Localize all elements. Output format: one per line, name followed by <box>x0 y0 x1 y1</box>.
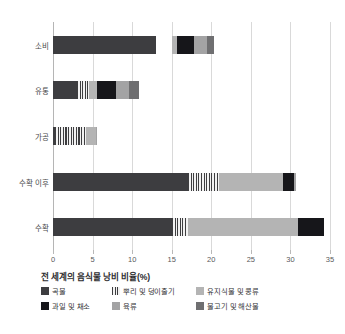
x-tick <box>93 250 94 254</box>
bar-segment <box>97 81 116 99</box>
bar-segment <box>294 173 296 191</box>
legend-item[interactable]: 유지식물 및 콩류 <box>196 286 259 296</box>
bar-segment <box>194 36 207 54</box>
x-tick-label: 30 <box>286 255 294 264</box>
x-tick-label: 35 <box>326 255 334 264</box>
bar-segment <box>172 218 189 236</box>
bar-segment <box>298 218 324 236</box>
bar-segment <box>89 81 97 99</box>
x-tick-label: 15 <box>168 255 176 264</box>
legend-item[interactable]: 곡물 <box>41 286 66 296</box>
x-tick <box>172 250 173 254</box>
bar-segment <box>129 81 139 99</box>
bar-segment <box>207 36 214 54</box>
legend-label: 과일 및 채소 <box>52 301 90 311</box>
x-tick <box>132 250 133 254</box>
legend-swatch <box>41 302 49 310</box>
legend-swatch <box>112 287 120 295</box>
y-tick-label: 유통 <box>35 85 49 96</box>
bar-row <box>53 36 330 54</box>
bar-row <box>53 173 330 191</box>
bar-segment <box>283 173 294 191</box>
bar-segment <box>53 81 77 99</box>
bar-segment <box>188 218 298 236</box>
y-tick-label: 수확 <box>35 222 49 233</box>
y-tick-label: 소비 <box>35 39 49 50</box>
x-tick-label: 20 <box>207 255 215 264</box>
legend-label: 육류 <box>123 301 137 311</box>
bar-segment <box>177 36 194 54</box>
legend-swatch <box>196 287 204 295</box>
bar-segment <box>53 36 156 54</box>
x-tick <box>330 250 331 254</box>
gridline <box>330 22 331 250</box>
bar-segment <box>116 81 129 99</box>
x-tick-label: 10 <box>128 255 136 264</box>
legend: 전 세계의 음식물 낭비 비율(%) 곡물뿌리 및 덩이줄기유지식물 및 콩류과… <box>41 268 341 334</box>
legend-swatch <box>41 287 49 295</box>
bar-segment <box>219 173 282 191</box>
legend-item[interactable]: 과일 및 채소 <box>41 301 90 311</box>
x-tick-label: 5 <box>90 255 94 264</box>
legend-swatch <box>112 302 120 310</box>
legend-label: 뿌리 및 덩이줄기 <box>123 286 175 296</box>
legend-item[interactable]: 물고기 및 해산물 <box>196 301 259 311</box>
y-tick-label: 가공 <box>35 131 49 142</box>
y-tick-label: 수확 이후 <box>19 176 49 187</box>
bar-segment <box>86 127 95 145</box>
chart-root: 05101520253035 소비유통가공수확 이후수확 전 세계의 음식물 낭… <box>0 0 345 334</box>
legend-label: 곡물 <box>52 286 66 296</box>
bar-segment <box>96 127 98 145</box>
bar-row <box>53 81 330 99</box>
bar-row <box>53 218 330 236</box>
x-tick <box>211 250 212 254</box>
legend-item[interactable]: 뿌리 및 덩이줄기 <box>112 286 175 296</box>
bar-segment <box>77 81 90 99</box>
x-tick <box>251 250 252 254</box>
legend-title: 전 세계의 음식물 낭비 비율(%) <box>41 270 150 282</box>
bar-segment <box>53 218 172 236</box>
x-tick-label: 0 <box>51 255 55 264</box>
x-tick-label: 25 <box>247 255 255 264</box>
legend-swatch <box>196 302 204 310</box>
legend-item[interactable]: 육류 <box>112 301 137 311</box>
bar-segment <box>53 173 188 191</box>
bar-row <box>53 127 330 145</box>
legend-label: 물고기 및 해산물 <box>207 301 259 311</box>
legend-label: 유지식물 및 콩류 <box>207 286 259 296</box>
x-tick <box>53 250 54 254</box>
bar-segment <box>188 173 220 191</box>
plot-wrapper: 05101520253035 소비유통가공수확 이후수확 <box>0 0 345 268</box>
x-tick <box>290 250 291 254</box>
bar-segment <box>55 127 87 145</box>
